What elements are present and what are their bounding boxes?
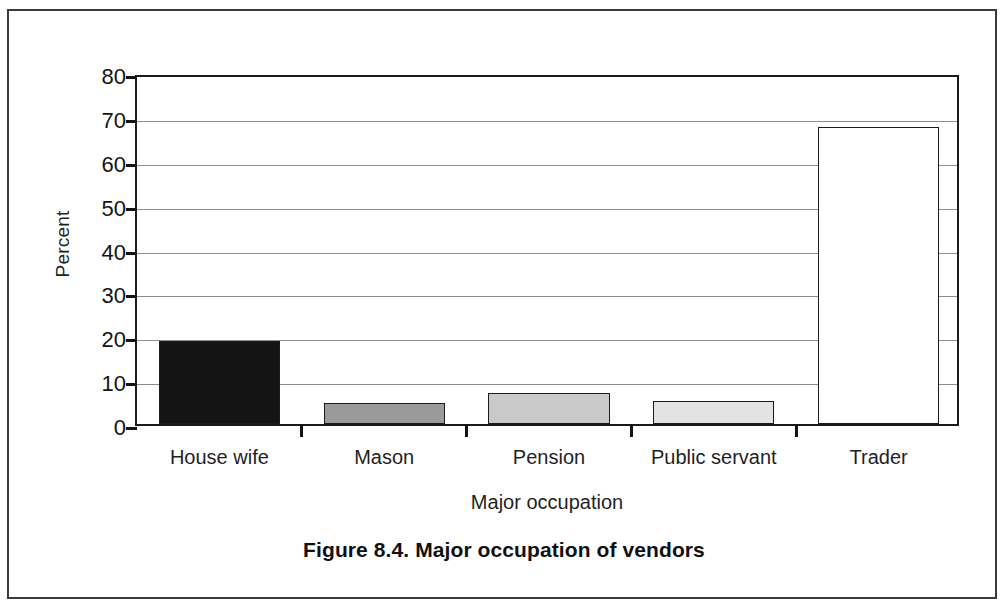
y-axis-tick-label: 70 — [102, 110, 126, 132]
x-axis-title: Major occupation — [135, 491, 959, 514]
bar — [159, 341, 280, 424]
x-axis-tick-mark — [795, 424, 798, 437]
x-axis-tick-label: Pension — [513, 447, 585, 467]
x-axis-tick-mark — [465, 424, 468, 437]
y-axis-tick-mark — [126, 339, 137, 342]
y-axis-tick-label: 50 — [102, 198, 126, 220]
x-axis-tick-label: Mason — [354, 447, 414, 467]
y-axis-tick-label: 0 — [114, 417, 126, 439]
y-axis-tick-mark — [126, 295, 137, 298]
bars-group — [137, 77, 957, 424]
y-axis-tick-mark — [126, 383, 137, 386]
bar — [653, 401, 774, 424]
y-axis-tick-label: 80 — [102, 66, 126, 88]
y-axis-tick-mark — [126, 252, 137, 255]
figure-caption: Figure 8.4. Major occupation of vendors — [9, 538, 999, 562]
x-axis-tick-mark — [300, 424, 303, 437]
bar — [324, 403, 445, 424]
x-axis-tick-label: Public servant — [651, 447, 777, 467]
y-axis-tick-label: 20 — [102, 329, 126, 351]
x-axis-tick-mark — [630, 424, 633, 437]
y-axis-tick-mark — [126, 208, 137, 211]
y-axis-tick-mark — [126, 427, 137, 430]
y-axis-tick-mark — [126, 76, 137, 79]
y-axis-tick-label: 60 — [102, 154, 126, 176]
y-axis-title: Percent — [52, 184, 74, 304]
y-axis-tick-label: 40 — [102, 242, 126, 264]
bar — [488, 393, 609, 424]
x-axis-tick-label: Trader — [850, 447, 908, 467]
y-axis-tick-mark — [126, 164, 137, 167]
bar-chart: Percent 80706050403020100 House wifeMaso… — [9, 11, 999, 601]
bar — [818, 127, 939, 424]
figure-frame: Percent 80706050403020100 House wifeMaso… — [7, 9, 997, 599]
y-axis-tick-mark — [126, 120, 137, 123]
x-axis-tick-label: House wife — [170, 447, 269, 467]
y-axis-tick-label: 30 — [102, 285, 126, 307]
plot-area: 80706050403020100 House wifeMasonPension… — [135, 75, 959, 426]
y-axis-tick-label: 10 — [102, 373, 126, 395]
